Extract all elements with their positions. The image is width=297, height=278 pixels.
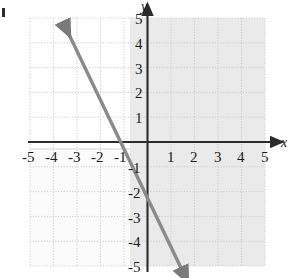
- x-tick-label-neg2: -2: [91, 150, 104, 165]
- x-tick-label-neg1: -1: [114, 150, 127, 165]
- x-tick-label-neg5: -5: [22, 150, 35, 165]
- x-tick-label-4: 4: [237, 150, 245, 165]
- x-tick-label-1: 1: [167, 150, 175, 165]
- y-tick-label-1: 1: [135, 111, 143, 126]
- y-tick-label-neg1: -1: [128, 161, 141, 176]
- y-tick-label-3: 3: [135, 62, 143, 77]
- x-tick-label-neg4: -4: [45, 150, 58, 165]
- x-axis-label: x: [281, 136, 287, 150]
- x-tick-label-3: 3: [214, 150, 222, 165]
- y-axis-label: y: [141, 0, 147, 14]
- y-tick-label-4: 4: [135, 37, 143, 52]
- x-tick-label-2: 2: [190, 150, 198, 165]
- x-tick-label-5: 5: [261, 150, 269, 165]
- coordinate-plane: [0, 0, 297, 278]
- y-tick-label-neg2: -2: [128, 186, 141, 201]
- y-tick-label-neg4: -4: [128, 235, 141, 250]
- y-tick-label-2: 2: [135, 86, 143, 101]
- y-tick-label-neg3: -3: [128, 211, 141, 226]
- y-tick-label-neg5: -5: [128, 260, 141, 275]
- x-tick-label-neg3: -3: [68, 150, 81, 165]
- graph-figure: -5 -4 -3 -2 -1 1 2 3 4 5 5 4 3 2 1 -1 -2…: [0, 0, 297, 278]
- y-tick-label-5: 5: [135, 12, 143, 27]
